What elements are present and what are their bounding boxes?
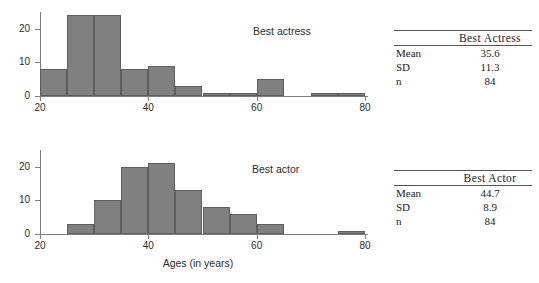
histogram-bar [203, 93, 230, 96]
histogram-bar [40, 69, 67, 96]
histogram-bar [230, 93, 257, 96]
stat-value: 8.9 [448, 200, 532, 214]
stat-value: 11.3 [448, 60, 532, 74]
bars-container-actor [40, 150, 365, 234]
table-row: SD8.9 [394, 200, 532, 214]
table-header-row: Best Actor [394, 171, 532, 186]
table-corner-cell [394, 31, 448, 46]
x-tick-label: 40 [136, 241, 160, 251]
histogram-bar [94, 200, 121, 234]
histogram-bar [148, 66, 175, 96]
y-tick-mark [35, 29, 40, 30]
table-row: Mean44.7 [394, 186, 532, 201]
y-tick-label: 20 [4, 162, 30, 172]
stats-table-best-actor: Best Actor Mean44.7SD8.9n84 [394, 170, 532, 228]
x-tick-label: 80 [353, 241, 377, 251]
histogram-bar [148, 163, 175, 234]
y-tick-label: 10 [4, 57, 30, 67]
histogram-bar [311, 93, 338, 96]
x-tick-mark [40, 234, 41, 239]
x-tick-label: 60 [245, 241, 269, 251]
histogram-bar [175, 86, 202, 96]
table-body-best-actress: Mean35.6SD11.3n84 [394, 46, 532, 89]
y-tick-label: 20 [4, 24, 30, 34]
histogram-bar [203, 207, 230, 234]
histogram-bar [257, 224, 284, 234]
x-tick-label: 40 [136, 103, 160, 113]
histogram-best-actor: 01020 20406080 Best actor Ages (in years… [0, 142, 380, 266]
x-tick-mark [148, 96, 149, 101]
table-corner-cell [394, 171, 448, 186]
table-row: Mean35.6 [394, 46, 532, 61]
histogram-bar [121, 167, 148, 234]
table-row: SD11.3 [394, 60, 532, 74]
x-tick-mark [40, 96, 41, 101]
table-header-best-actress: Best Actress [448, 31, 532, 46]
y-tick-mark [35, 62, 40, 63]
x-tick-label: 80 [353, 103, 377, 113]
x-axis-line [38, 96, 368, 97]
table-header-best-actor: Best Actor [448, 171, 532, 186]
x-tick-mark [365, 234, 366, 239]
stat-value: 44.7 [448, 186, 532, 201]
table-body-best-actor: Mean44.7SD8.9n84 [394, 186, 532, 229]
series-label-best-actress: Best actress [253, 26, 311, 37]
stat-value: 84 [448, 74, 532, 88]
histogram-bar [175, 190, 202, 234]
x-tick-mark [257, 96, 258, 101]
histogram-best-actress: 01020 20406080 Best actress [0, 4, 380, 124]
series-label-best-actor: Best actor [252, 164, 299, 175]
histogram-bar [94, 15, 121, 96]
y-tick-mark [35, 200, 40, 201]
stat-value: 84 [448, 214, 532, 228]
stat-label: SD [394, 60, 448, 74]
stat-value: 35.6 [448, 46, 532, 61]
stat-label: Mean [394, 186, 448, 201]
stat-label: Mean [394, 46, 448, 61]
table-header-row: Best Actress [394, 31, 532, 46]
histogram-bar [338, 231, 365, 234]
x-tick-mark [148, 234, 149, 239]
y-tick-label: 0 [4, 229, 30, 239]
x-tick-mark [257, 234, 258, 239]
y-tick-label: 10 [4, 195, 30, 205]
histogram-bar [257, 79, 284, 96]
y-tick-mark [35, 167, 40, 168]
stats-table-best-actress: Best Actress Mean35.6SD11.3n84 [394, 30, 532, 88]
histogram-bar [67, 224, 94, 234]
x-tick-mark [365, 96, 366, 101]
x-tick-label: 20 [28, 241, 52, 251]
stat-label: n [394, 74, 448, 88]
histogram-bar [338, 93, 365, 96]
table-row: n84 [394, 214, 532, 228]
stat-label: n [394, 214, 448, 228]
x-tick-label: 20 [28, 103, 52, 113]
x-tick-label: 60 [245, 103, 269, 113]
histogram-bar [121, 69, 148, 96]
x-axis-title: Ages (in years) [108, 257, 288, 269]
x-axis-line [38, 234, 368, 235]
table-row: n84 [394, 74, 532, 88]
y-tick-label: 0 [4, 91, 30, 101]
bars-container-actress [40, 12, 365, 96]
figure-root: 01020 20406080 Best actress 01020 204060… [0, 0, 539, 283]
stat-label: SD [394, 200, 448, 214]
histogram-bar [67, 15, 94, 96]
histogram-bar [230, 214, 257, 234]
